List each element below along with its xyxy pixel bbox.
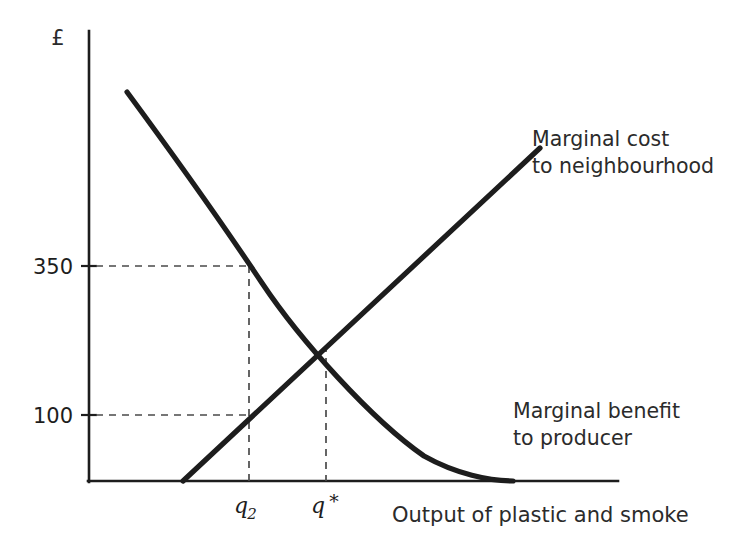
marginal-benefit-label-line2: to producer [513,426,633,450]
x-tick-label-qstar-base: q [311,493,325,518]
marginal-cost-label-group: Marginal cost to neighbourhood [532,127,714,178]
y-tick-label-350: 350 [33,255,73,279]
marginal-cost-label-line1: Marginal cost [532,127,669,151]
y-axis-title: £ [51,26,64,50]
x-tick-label-q2-base: q [234,493,248,518]
marginal-benefit-label-group: Marginal benefit to producer [513,399,680,450]
chart-page: £ 350 100 q 2 q * Output of plastic and … [0,0,732,555]
x-tick-label-qstar: q * [311,490,339,518]
marginal-benefit-label-line1: Marginal benefit [513,399,680,423]
externality-chart: £ 350 100 q 2 q * Output of plastic and … [0,0,732,555]
marginal-benefit-curve [127,92,513,481]
x-axis-title: Output of plastic and smoke [392,503,689,527]
x-tick-label-qstar-asterisk: * [329,490,339,512]
x-tick-label-q2: q 2 [234,493,257,523]
y-tick-label-100: 100 [33,404,73,428]
marginal-cost-curve [183,148,540,481]
x-tick-label-q2-subscript: 2 [246,505,257,523]
marginal-cost-label-line2: to neighbourhood [532,154,714,178]
